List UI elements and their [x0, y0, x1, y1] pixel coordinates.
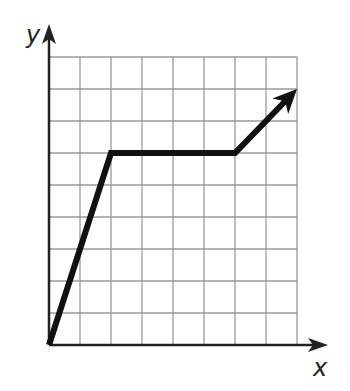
axes: y x: [25, 21, 328, 382]
y-axis-label: y: [25, 21, 41, 49]
x-axis-label: x: [312, 354, 328, 382]
line-chart: y x: [0, 0, 350, 391]
data-line: [49, 100, 286, 345]
grid: [49, 57, 297, 345]
